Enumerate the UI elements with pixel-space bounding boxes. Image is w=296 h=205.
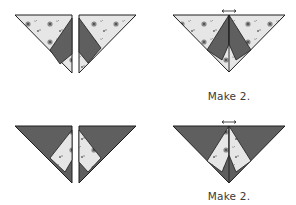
row2-left-piece — [15, 126, 72, 183]
row1-left-piece — [15, 15, 72, 73]
row1-assembled-unit — [173, 10, 285, 73]
diagram-canvas — [0, 0, 296, 205]
row2-caption: Make 2. — [189, 190, 269, 202]
row2-assembled-unit — [173, 121, 285, 184]
row1-right-piece — [79, 15, 136, 73]
row2-right-piece — [79, 126, 136, 183]
row1-caption: Make 2. — [189, 90, 269, 102]
